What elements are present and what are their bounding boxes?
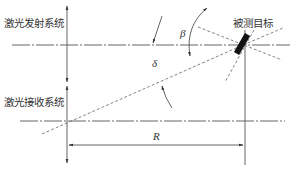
- distance-label: R: [152, 130, 160, 142]
- delta-arrow-lower: [162, 86, 172, 108]
- delta-arrow-upper: [153, 16, 162, 43]
- laser-ranging-diagram: 激光发射系统 激光接收系统 被测目标 β δ R: [0, 0, 295, 170]
- target-normal-line-steep: [225, 30, 254, 82]
- target-body: [234, 33, 250, 55]
- delta-label: δ: [152, 57, 158, 69]
- receiver-label: 激光接收系统: [4, 96, 65, 108]
- beta-label: β: [179, 27, 186, 39]
- beta-angle-arc: [189, 8, 207, 56]
- emitter-label: 激光发射系统: [4, 17, 65, 29]
- target-label: 被测目标: [233, 17, 274, 29]
